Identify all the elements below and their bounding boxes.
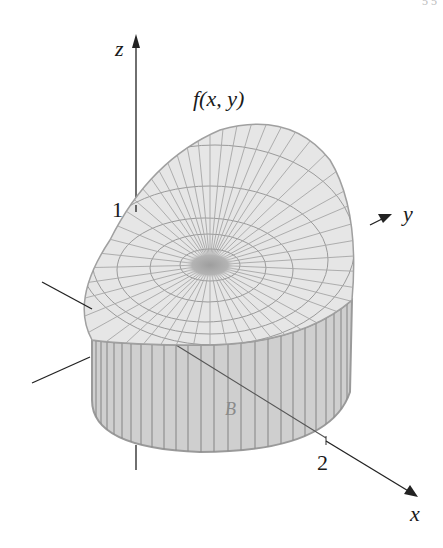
solid-diagram	[0, 0, 443, 548]
z-axis-label: z	[115, 38, 124, 60]
x-axis-label: x	[410, 503, 420, 525]
back-axis-lower	[32, 357, 90, 383]
surface-center-spot	[184, 251, 236, 279]
y-axis-label: y	[403, 203, 413, 225]
x-axis	[326, 436, 418, 497]
z-tick-label-1: 1	[112, 199, 123, 221]
function-label: f(x, y)	[193, 88, 244, 110]
x-tick-label-2: 2	[317, 452, 328, 474]
figure-canvas: 5 5 z f(x, y) 1 y B 2 x	[0, 0, 443, 548]
region-label-b: B	[225, 400, 236, 418]
z-axis	[132, 34, 140, 205]
back-axis-upper	[42, 282, 92, 309]
page-number-fragment: 5 5	[422, 0, 437, 9]
y-axis	[370, 214, 392, 225]
